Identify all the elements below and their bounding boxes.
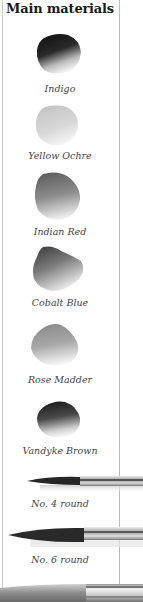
paint-swatch-icon <box>33 170 83 222</box>
paint-swatch-icon <box>29 322 83 368</box>
round-brush-icon <box>0 476 143 496</box>
paint-label: Vandyke Brown <box>0 445 120 456</box>
paint-swatch-icon <box>33 103 83 147</box>
brush-label: No. 6 round <box>0 554 120 565</box>
paint-swatch-icon <box>35 400 83 440</box>
paint-swatch-icon <box>34 32 84 76</box>
section-title: Main materials <box>0 2 120 16</box>
paint-label: Rose Madder <box>0 374 120 385</box>
paint-label: Yellow Ochre <box>0 150 120 161</box>
flat-brush-icon <box>0 584 143 602</box>
round-brush-icon <box>0 527 143 549</box>
paint-label: Indian Red <box>0 226 120 237</box>
paint-label: Indigo <box>0 83 120 94</box>
brush-label: No. 4 round <box>0 498 120 509</box>
paint-label: Cobalt Blue <box>0 297 120 308</box>
paint-swatch-icon <box>31 245 87 293</box>
